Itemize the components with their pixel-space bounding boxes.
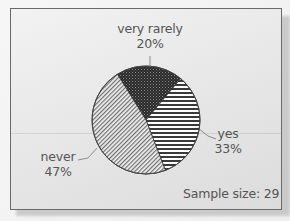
sample-size-annotation: Sample size: 29 — [183, 186, 279, 201]
data-label-never: never 47% — [38, 149, 78, 179]
label-percent: 33% — [208, 141, 248, 156]
chart-stage: very rarely 20% yes 33% never 47% Sample… — [0, 0, 290, 221]
data-label-yes: yes 33% — [208, 126, 248, 156]
label-percent: 20% — [110, 36, 190, 51]
label-name: never — [38, 149, 78, 164]
label-name: yes — [208, 126, 248, 141]
data-label-very-rarely: very rarely 20% — [110, 21, 190, 51]
leader-line-never — [78, 148, 97, 160]
label-name: very rarely — [110, 21, 190, 36]
label-percent: 47% — [38, 164, 78, 179]
